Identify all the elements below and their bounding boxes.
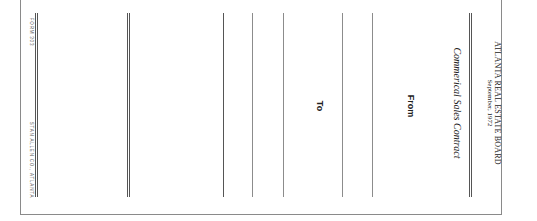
to-line-1 xyxy=(252,13,253,197)
printer-credit: STAN ALLEN CO., ATLANTA xyxy=(29,122,34,198)
form-number: FORM 303 xyxy=(29,18,34,46)
left-double-rule xyxy=(35,13,38,197)
document-border xyxy=(20,0,502,215)
rule-line xyxy=(223,13,224,197)
header-double-rule xyxy=(469,13,472,197)
from-line-2 xyxy=(372,13,373,197)
form-date: September, 1972 xyxy=(486,79,494,126)
document-title: Commerical Sales Contract xyxy=(452,47,463,158)
from-line-1 xyxy=(342,13,343,197)
inner-double-rule xyxy=(127,13,130,197)
from-label: From xyxy=(406,95,416,118)
to-line-2 xyxy=(283,13,284,197)
to-label: To xyxy=(315,101,325,111)
